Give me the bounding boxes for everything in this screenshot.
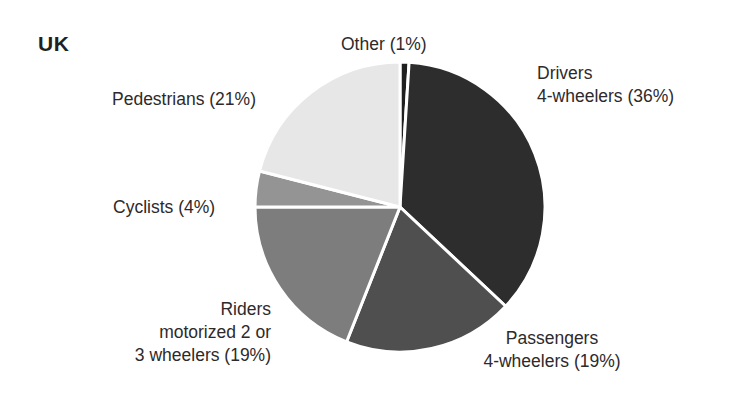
pie-label-other-line1: Other (1%) — [341, 33, 427, 56]
pie-label-passengers-line2: 4-wheelers (19%) — [466, 350, 638, 373]
pie-label-riders-line2: motorized 2 or — [85, 321, 271, 344]
pie-label-drivers-line1: Drivers — [537, 62, 674, 85]
pie-label-drivers: Drivers 4-wheelers (36%) — [537, 62, 674, 108]
pie-label-riders-line1: Riders — [85, 298, 271, 321]
pie-chart-figure: UK Other (1%)Drivers 4-wheelers (36%)Pas… — [0, 0, 739, 396]
pie-label-riders-line3: 3 wheelers (19%) — [85, 344, 271, 367]
pie-label-other: Other (1%) — [341, 33, 427, 56]
pie-label-pedestrians: Pedestrians (21%) — [112, 88, 256, 111]
pie-label-pedestrians-line1: Pedestrians (21%) — [112, 88, 256, 111]
pie-label-drivers-line2: 4-wheelers (36%) — [537, 85, 674, 108]
pie-label-passengers: Passengers 4-wheelers (19%) — [466, 327, 638, 373]
pie-label-cyclists: Cyclists (4%) — [113, 196, 215, 219]
pie-label-cyclists-line1: Cyclists (4%) — [113, 196, 215, 219]
pie-label-passengers-line1: Passengers — [466, 327, 638, 350]
pie-slice-group: Other (1%)Drivers 4-wheelers (36%)Passen… — [255, 62, 545, 352]
pie-label-riders: Riders motorized 2 or 3 wheelers (19%) — [85, 298, 271, 367]
